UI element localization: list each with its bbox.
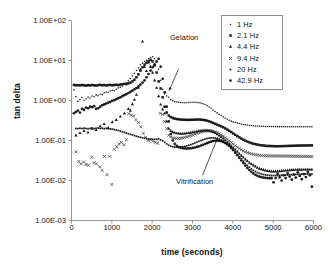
legend-marker-icon (225, 65, 236, 74)
series-20-hz (75, 127, 313, 176)
plot-area (0, 0, 334, 269)
legend-label: 1 Hz (236, 20, 253, 29)
legend-marker-icon (225, 31, 236, 40)
chart-legend: 1 Hz2.1 Hz4.4 Hz9.4 Hz20 Hz42.9 Hz (221, 15, 283, 90)
annotation-arrow-gelation (169, 69, 178, 90)
legend-item-4-4-hz[interactable]: 4.4 Hz (225, 41, 280, 52)
legend-item-2-1-hz[interactable]: 2.1 Hz (225, 30, 280, 41)
legend-label: 9.4 Hz (236, 54, 259, 63)
legend-marker-icon (225, 42, 236, 51)
legend-item-9-4-hz[interactable]: 9.4 Hz (225, 53, 280, 64)
legend-marker-icon (225, 76, 236, 85)
legend-marker-icon (225, 54, 236, 63)
annotation-gelation: Gelation (170, 33, 198, 42)
legend-item-42-9-hz[interactable]: 42.9 Hz (225, 75, 280, 86)
legend-label: 2.1 Hz (236, 31, 259, 40)
legend-label: 42.9 Hz (236, 76, 263, 85)
legend-label: 4.4 Hz (236, 42, 259, 51)
legend-item-20-hz[interactable]: 20 Hz (225, 64, 280, 75)
legend-item-1-hz[interactable]: 1 Hz (225, 19, 280, 30)
chart-figure: tan delta time (seconds) 1.00E+021.00E+0… (0, 0, 334, 269)
legend-marker-icon (225, 20, 236, 29)
legend-label: 20 Hz (236, 65, 257, 74)
annotation-vitrification: Vitrification (176, 177, 213, 186)
